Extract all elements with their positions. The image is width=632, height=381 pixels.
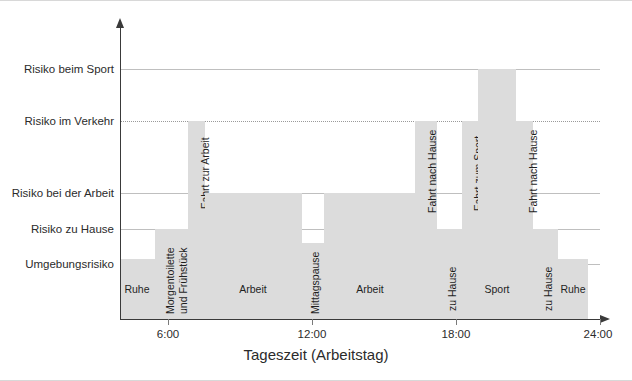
segment-label-morgentoilette-line1: Morgentoilette (165, 247, 176, 314)
x-axis-title: Tageszeit (Arbeitstag) (0, 346, 632, 363)
y-tick-label-umgebung: Umgebungsrisiko (0, 259, 114, 271)
segment-label-fahrt-nach-hause-2: Fahrt nach Hause (528, 130, 539, 213)
segment-arbeit-nachmittag (324, 193, 415, 319)
segment-label-zu-hause-1: zu Hause (447, 267, 458, 311)
segment-label-ruhe-night: Ruhe (560, 284, 585, 295)
segment-label-arbeit-vormittag: Arbeit (239, 284, 266, 295)
segment-label-fahrt-nach-hause-1: Fahrt nach Hause (427, 130, 438, 213)
segment-sport (478, 69, 516, 319)
chart-figure: Ruhe Morgentoilette und Frühstück Fahrt … (0, 0, 632, 381)
y-tick-label-arbeit: Risiko bei der Arbeit (0, 188, 114, 200)
segment-arbeit-vormittag (205, 193, 302, 319)
x-axis-line (120, 319, 601, 320)
x-tick-label-24: 24:00 (584, 328, 613, 340)
y-tick-label-hause: Risiko zu Hause (0, 224, 114, 236)
segment-label-sport: Sport (484, 284, 509, 295)
x-tick-mark-12 (312, 319, 313, 325)
segment-label-ruhe-morning: Ruhe (124, 284, 149, 295)
x-tick-label-12: 12:00 (298, 328, 327, 340)
y-axis-arrow-icon (116, 18, 124, 28)
segment-label-arbeit-nachmittag: Arbeit (356, 284, 383, 295)
x-tick-mark-18 (456, 319, 457, 325)
x-tick-label-18: 18:00 (442, 328, 471, 340)
x-axis-arrow-icon (600, 315, 610, 323)
y-tick-label-sport: Risiko beim Sport (0, 64, 114, 76)
y-tick-label-verkehr: Risiko im Verkehr (0, 116, 114, 128)
gridline-sport (120, 69, 600, 70)
segment-label-zu-hause-2: zu Hause (543, 267, 554, 311)
segment-label-mittagspause: Mittagspause (310, 252, 321, 314)
x-tick-label-6: 6:00 (157, 328, 179, 340)
segment-label-morgentoilette-line2: und Frühstück (178, 247, 189, 314)
y-axis-line (120, 27, 121, 319)
x-tick-mark-24 (600, 319, 601, 325)
plot-area: Ruhe Morgentoilette und Frühstück Fahrt … (120, 21, 600, 319)
x-tick-mark-6 (168, 319, 169, 325)
